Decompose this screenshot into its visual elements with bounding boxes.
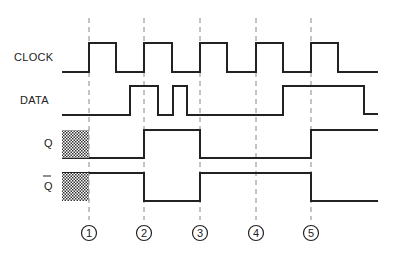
waveforms: 1 2 3 4 5 [0,0,394,259]
timing-diagram: CLOCK DATA Q Q [0,0,394,259]
marker-2: 2 [141,227,147,239]
marker-4: 4 [253,227,259,239]
marker-5: 5 [308,227,314,239]
q-bar-waveform [62,173,378,201]
data-waveform [62,86,378,115]
q-undefined-region [62,130,89,158]
q-waveform [62,130,378,158]
marker-3: 3 [197,227,203,239]
marker-1: 1 [86,227,92,239]
clock-waveform [62,43,378,72]
q-bar-undefined-region [62,173,89,201]
